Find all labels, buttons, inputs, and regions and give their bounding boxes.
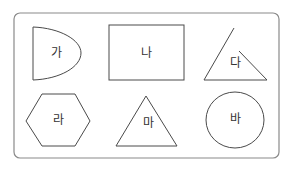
shape-ga: 가	[33, 27, 81, 80]
label-na: 나	[141, 46, 152, 60]
shape-da: 다	[204, 28, 267, 80]
label-ma: 마	[143, 116, 154, 130]
open-triangle-shape	[204, 28, 267, 80]
shape-ba: 바	[206, 92, 264, 148]
card-frame	[14, 13, 279, 158]
label-da: 다	[230, 56, 241, 70]
shape-ma: 마	[116, 96, 177, 146]
label-ra: 라	[53, 113, 64, 127]
shapes-diagram: 가 나 다 라 마 바	[0, 0, 285, 170]
label-ba: 바	[230, 112, 241, 126]
shape-ra: 라	[26, 94, 90, 146]
label-ga: 가	[51, 46, 62, 60]
shape-na: 나	[109, 25, 184, 80]
